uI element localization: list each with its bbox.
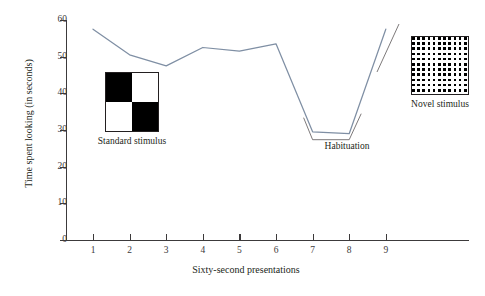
checker-cell-bottom-left [106, 102, 132, 131]
checker-cell-top-right [132, 73, 158, 102]
standard-stimulus-figure: Standard stimulus [90, 72, 174, 147]
novel-stimulus-checkerboard-icon [411, 36, 469, 95]
habituation-line-chart: 6050403020100 123456789 Time spent looki… [0, 0, 485, 296]
standard-stimulus-caption: Standard stimulus [90, 136, 174, 147]
novel-stimulus-figure: Novel stimulus [398, 36, 482, 110]
checker-cell-top-left [106, 73, 132, 102]
habituation-leader-line [304, 114, 362, 140]
checker-cell-bottom-right [132, 102, 158, 131]
novel-stimulus-leader-line [377, 24, 399, 72]
habituation-annotation-label: Habituation [297, 141, 397, 152]
novel-stimulus-caption: Novel stimulus [398, 99, 482, 110]
standard-stimulus-checkerboard-icon [105, 72, 159, 132]
